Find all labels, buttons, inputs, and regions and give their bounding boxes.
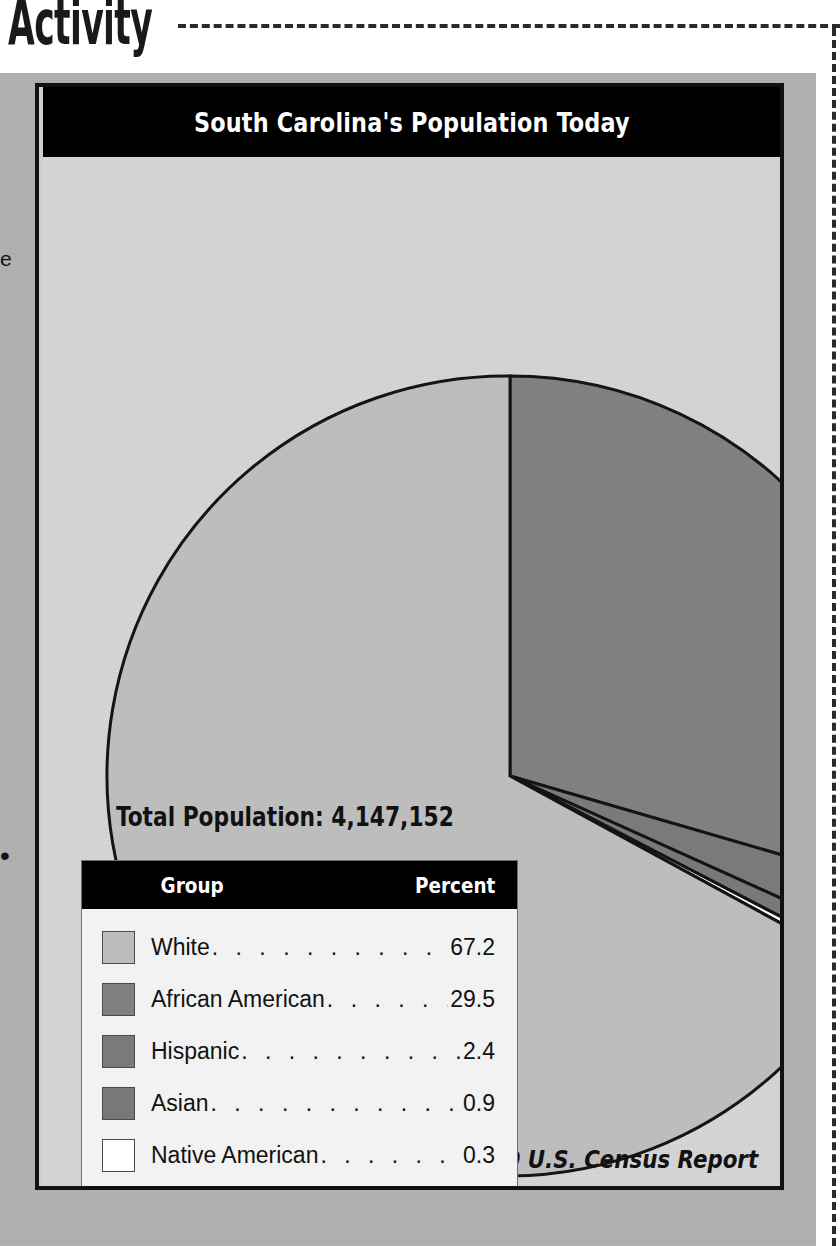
legend-value: 0.3 (463, 1142, 495, 1169)
dashed-rule-top (178, 24, 840, 28)
legend-label: Asian (151, 1090, 209, 1117)
dot-leader: . . . . . . . . . . . . . . . . . . . . … (212, 934, 448, 961)
section-heading-activity: Activity (8, 0, 152, 59)
legend-value: 29.5 (450, 986, 495, 1013)
dashed-rule-right (832, 28, 836, 1246)
legend-value: 2.4 (463, 1038, 495, 1065)
legend-swatch-african-american (102, 983, 135, 1016)
edge-text-fragment-1: e (0, 247, 12, 271)
legend-row: White . . . . . . . . . . . . . . . . . … (102, 921, 495, 973)
legend-header-group: Group (102, 873, 387, 898)
legend-rows: White . . . . . . . . . . . . . . . . . … (82, 909, 517, 1190)
legend-value: 0.9 (463, 1090, 495, 1117)
dot-leader: . . . . . . . . . . . . . . . . . . . . … (320, 1142, 461, 1169)
legend-label: White (151, 934, 210, 961)
legend-row: African American . . . . . . . . . . . .… (102, 973, 495, 1025)
dot-leader: . . . . . . . . . . . . . . . . . . . . … (327, 986, 448, 1013)
edge-text-fragment-2: • (0, 840, 10, 872)
dot-leader: . . . . . . . . . . . . . . . . . . . . … (241, 1038, 461, 1065)
dot-leader: . . . . . . . . . . . . . . . . . . . . … (211, 1090, 461, 1117)
chart-title-bar: South Carolina's Population Today (43, 87, 780, 157)
legend-swatch-asian (102, 1087, 135, 1120)
legend-label: Hispanic (151, 1038, 239, 1065)
legend-label: African American (151, 986, 325, 1013)
legend-table: Group Percent White . . . . . . . . . . … (81, 860, 518, 1190)
legend-swatch-native-american (102, 1139, 135, 1172)
legend-header-percent: Percent (415, 873, 495, 898)
legend-swatch-white (102, 931, 135, 964)
plot-area: Total Population: 4,147,152 Group Percen… (43, 157, 780, 1186)
legend-swatch-hispanic (102, 1035, 135, 1068)
legend-label: Native American (151, 1142, 318, 1169)
legend-row: Asian . . . . . . . . . . . . . . . . . … (102, 1077, 495, 1129)
legend-header-row: Group Percent (82, 861, 517, 909)
legend-row: Hispanic . . . . . . . . . . . . . . . .… (102, 1025, 495, 1077)
total-population-label: Total Population: 4,147,152 (116, 802, 454, 832)
chart-panel: South Carolina's Population Today (35, 83, 784, 1190)
page-background-margin (816, 73, 840, 1246)
legend-row: Native American . . . . . . . . . . . . … (102, 1129, 495, 1181)
legend-value: 67.2 (450, 934, 495, 961)
chart-title: South Carolina's Population Today (194, 107, 630, 138)
page-root: Activity e • South Carolina's Population… (0, 0, 840, 1246)
